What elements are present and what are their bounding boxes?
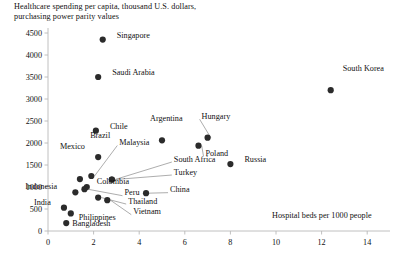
x-tick-label: 0 (46, 238, 50, 247)
x-tick-label: 2 (92, 238, 96, 247)
data-point-label: Chile (110, 122, 128, 131)
data-point[interactable] (104, 197, 110, 203)
data-point[interactable] (72, 189, 78, 195)
data-point-label: India (34, 198, 51, 207)
y-tick-label: 1500 (26, 161, 42, 170)
data-point-label: Indonesia (25, 182, 57, 191)
label-leader-line (95, 146, 118, 177)
x-tick-label: 14 (363, 238, 371, 247)
label-leader-line (200, 119, 211, 138)
x-tick-label: 6 (183, 238, 187, 247)
data-point[interactable] (143, 190, 149, 196)
data-point[interactable] (159, 137, 165, 143)
data-point[interactable] (95, 74, 101, 80)
data-point[interactable] (81, 186, 87, 192)
scatter-chart: Healthcare spending per capita, thousand… (0, 0, 412, 257)
data-point-label: China (170, 185, 190, 194)
y-tick-label: 0 (38, 227, 42, 236)
data-point-label: Malaysia (119, 138, 149, 147)
data-point-label: Vietnam (133, 207, 161, 216)
data-point[interactable] (195, 143, 201, 149)
data-point[interactable] (95, 194, 101, 200)
data-point-label: Brazil (90, 131, 110, 140)
data-point[interactable] (100, 37, 106, 43)
data-point-label: Hungary (202, 112, 231, 121)
data-point[interactable] (61, 205, 67, 211)
data-point-label: Argentina (150, 114, 183, 123)
data-point-label: Colombia (97, 177, 129, 186)
data-point[interactable] (95, 154, 101, 160)
data-point-label: South Korea (343, 64, 384, 73)
x-tick-label: 8 (228, 238, 232, 247)
y-tick-label: 4500 (26, 29, 42, 38)
data-point-label: Saudi Arabia (112, 68, 155, 77)
x-axis-title: Hospital beds per 1000 people (272, 211, 372, 220)
x-tick-label: 10 (272, 238, 280, 247)
x-tick-label: 4 (137, 238, 141, 247)
label-leader-line (88, 189, 123, 196)
y-tick-label: 2000 (26, 139, 42, 148)
label-leader-line (149, 193, 168, 194)
y-tick-label: 3000 (26, 95, 42, 104)
data-point-label: Singapore (117, 31, 150, 40)
data-point[interactable] (77, 176, 83, 182)
data-point-label: Mexico (60, 142, 85, 151)
data-point[interactable] (88, 173, 94, 179)
data-point[interactable] (63, 220, 69, 226)
data-point[interactable] (227, 161, 233, 167)
data-point-label: Russia (244, 155, 266, 164)
data-point[interactable] (68, 210, 74, 216)
data-point-label: Bangladesh (72, 219, 110, 228)
data-point-label: South Africa (174, 155, 216, 164)
data-point-label: Thailand (128, 197, 157, 206)
x-tick-label: 12 (318, 238, 326, 247)
y-tick-label: 3500 (26, 73, 42, 82)
data-point[interactable] (328, 87, 334, 93)
y-tick-label: 2500 (26, 117, 42, 126)
y-tick-label: 4000 (26, 51, 42, 60)
data-point-label: Turkey (174, 168, 197, 177)
data-point[interactable] (205, 135, 211, 141)
